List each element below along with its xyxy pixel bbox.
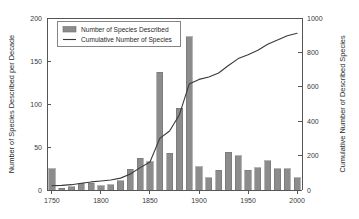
x-tick-label-1750: 1750 <box>44 197 60 204</box>
legend-label-bars: Number of Species Described <box>81 26 169 34</box>
bar-1780 <box>78 183 84 190</box>
bar-1860 <box>157 72 163 190</box>
chart-legend: Number of Species Described Cumulative N… <box>57 21 180 46</box>
bar-1900 <box>196 167 202 190</box>
bar-1980 <box>274 169 280 191</box>
bar-1940 <box>235 156 241 190</box>
y2-tick-label-800: 800 <box>307 49 319 56</box>
bar-1800 <box>98 186 104 190</box>
bar-1820 <box>117 181 123 190</box>
y2-tick-label-0: 0 <box>307 187 311 194</box>
bar-1930 <box>225 152 231 190</box>
bar-1960 <box>255 168 261 190</box>
bar-1990 <box>284 169 290 191</box>
bar-1920 <box>216 170 222 190</box>
y-tick-label-50: 50 <box>34 144 42 151</box>
y-tick-label-150: 150 <box>30 58 42 65</box>
x-tick-label-2000: 2000 <box>289 197 305 204</box>
bar-1870 <box>167 153 173 190</box>
chart-canvas: 050100150200 02004006008001000 175018001… <box>0 0 359 219</box>
bar-1750 <box>49 169 55 191</box>
bar-1890 <box>186 37 192 190</box>
x-tick-label-1800: 1800 <box>93 197 109 204</box>
x-axis-ticks: 175018001850190019502000 <box>44 190 305 204</box>
y2-tick-label-400: 400 <box>307 118 319 125</box>
y2-tick-label-1000: 1000 <box>307 15 323 22</box>
bar-2000 <box>294 178 300 190</box>
x-tick-label-1850: 1850 <box>142 197 158 204</box>
bar-1970 <box>265 161 271 190</box>
bar-1880 <box>176 108 182 190</box>
bar-1950 <box>245 170 251 190</box>
legend-label-cumulative: Cumulative Number of Species <box>81 36 173 44</box>
y-tick-label-0: 0 <box>38 187 42 194</box>
bar-1840 <box>137 158 143 190</box>
bar-1790 <box>88 183 94 190</box>
y-tick-label-100: 100 <box>30 101 42 108</box>
y2-tick-label-600: 600 <box>307 83 319 90</box>
x-tick-label-1900: 1900 <box>191 197 207 204</box>
y-axis-title: Number of Species Described per Decade <box>7 35 16 173</box>
bar-1910 <box>206 178 212 190</box>
bar-1850 <box>147 162 153 190</box>
chart-figure: 050100150200 02004006008001000 175018001… <box>0 0 359 219</box>
bar-1810 <box>108 185 114 190</box>
legend-swatch-bars <box>63 27 76 33</box>
y-tick-label-200: 200 <box>30 15 42 22</box>
y2-axis-title: Cumulative Number of Described Species <box>338 35 347 173</box>
bar-1770 <box>68 187 74 190</box>
x-tick-label-1950: 1950 <box>240 197 256 204</box>
y2-tick-label-200: 200 <box>307 152 319 159</box>
